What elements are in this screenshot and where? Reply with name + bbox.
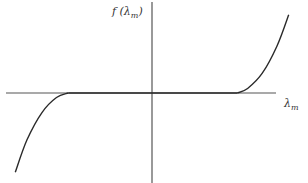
x-axis-label-main: λ: [283, 97, 291, 110]
curve-right-branch: [237, 15, 288, 93]
x-axis-label-subscript: m: [291, 103, 299, 112]
y-axis-label-prefix: f (λ: [111, 5, 131, 18]
y-axis-label: f (λm): [111, 5, 143, 20]
x-axis-label: λm: [283, 97, 299, 112]
curve-left-branch: [15, 93, 68, 172]
y-axis-label-suffix: ): [137, 5, 142, 18]
chart: f (λm) λm: [0, 0, 308, 183]
